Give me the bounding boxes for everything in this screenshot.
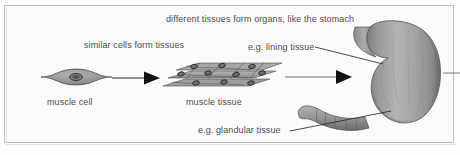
- muscle-cell-illustration: [41, 69, 112, 85]
- arrow-tissue-to-organ: [285, 70, 352, 84]
- tissue-organ-diagram: different tissues form organs, like the …: [0, 0, 460, 155]
- label-similar-cells-form-tissues: similar cells form tissues: [84, 40, 184, 51]
- label-muscle-cell: muscle cell: [47, 97, 93, 108]
- muscle-tissue-illustration: [163, 63, 282, 86]
- stomach-illustration: [298, 21, 440, 131]
- arrow-cell-to-tissue: [112, 72, 160, 85]
- label-glandular-tissue: e.g. glandular tissue: [198, 125, 281, 136]
- label-muscle-tissue: muscle tissue: [186, 97, 242, 108]
- label-different-tissues-form-organs: different tissues form organs, like the …: [166, 14, 354, 25]
- label-lining-tissue: e.g. lining tissue: [248, 42, 314, 53]
